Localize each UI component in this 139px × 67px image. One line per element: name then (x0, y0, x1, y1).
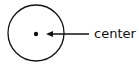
arrow (46, 31, 89, 37)
center-label: center (94, 26, 136, 41)
arrow-head-icon (46, 31, 53, 37)
circle-diagram: center (0, 0, 139, 67)
center-dot (34, 32, 38, 36)
